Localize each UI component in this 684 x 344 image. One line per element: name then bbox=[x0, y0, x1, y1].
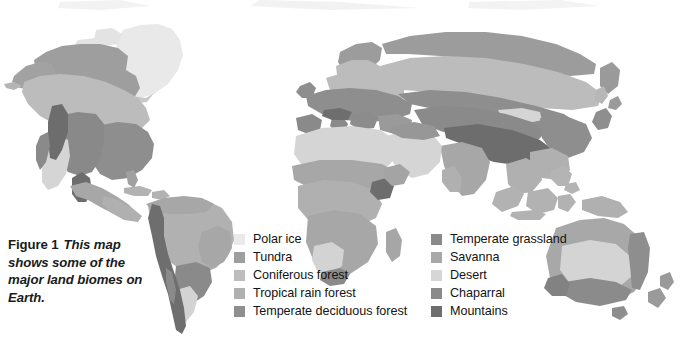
central-america-rain-forest bbox=[102, 196, 142, 222]
figure-label: Figure 1 bbox=[8, 237, 59, 252]
legend-label-tropical-rain-forest: Tropical rain forest bbox=[253, 287, 356, 300]
legend-item: Coniferous forest bbox=[234, 267, 407, 284]
new-guinea-rain-forest bbox=[582, 196, 628, 218]
legend-item: Tundra bbox=[234, 249, 407, 266]
japan-deciduous-forest-2 bbox=[608, 96, 622, 110]
south-america-savanna-east bbox=[198, 226, 232, 268]
japan-deciduous-forest bbox=[592, 108, 612, 130]
legend-item: Savanna bbox=[431, 249, 567, 266]
legend-item: Polar ice bbox=[234, 231, 407, 248]
legend-item: Temperate grassland bbox=[431, 231, 567, 248]
legend-item: Temperate deciduous forest bbox=[234, 303, 407, 320]
tasmania-forest bbox=[612, 306, 628, 320]
figure-caption: Figure 1This map shows some of the major… bbox=[8, 236, 150, 306]
page-print-artifacts bbox=[58, 0, 600, 10]
legend-swatch-desert bbox=[431, 270, 442, 281]
legend-swatch-chaparral bbox=[431, 288, 442, 299]
new-zealand-south-forest bbox=[648, 288, 666, 308]
biome-map-figure: This map shows some of the major land bi… bbox=[0, 0, 684, 344]
legend-label-temperate-grassland: Temperate grassland bbox=[450, 233, 567, 246]
legend-label-mountains: Mountains bbox=[450, 305, 508, 318]
legend-swatch-mountains bbox=[431, 306, 442, 317]
sulawesi-rain-forest bbox=[558, 194, 576, 212]
legend-swatch-temperate-grassland bbox=[431, 234, 442, 245]
legend-item: Tropical rain forest bbox=[234, 285, 407, 302]
legend-column-left: Polar ice Tundra Coniferous forest Tropi… bbox=[234, 231, 407, 321]
legend-swatch-temperate-deciduous-forest bbox=[234, 306, 245, 317]
legend-column-right: Temperate grassland Savanna Desert Chapa… bbox=[431, 231, 567, 321]
legend-swatch-tropical-rain-forest bbox=[234, 288, 245, 299]
legend-item: Mountains bbox=[431, 303, 567, 320]
region-south-america bbox=[146, 196, 234, 334]
legend-label-coniferous-forest: Coniferous forest bbox=[253, 269, 348, 282]
legend-label-tundra: Tundra bbox=[253, 251, 292, 264]
legend-item: Desert bbox=[431, 267, 567, 284]
new-zealand-north-forest bbox=[660, 272, 674, 290]
legend-label-desert: Desert bbox=[450, 269, 487, 282]
region-europe bbox=[296, 42, 412, 134]
legend-swatch-savanna bbox=[431, 252, 442, 263]
legend-label-savanna: Savanna bbox=[450, 251, 499, 264]
legend-swatch-coniferous-forest bbox=[234, 270, 245, 281]
borneo-rain-forest bbox=[526, 188, 558, 214]
legend-swatch-tundra bbox=[234, 252, 245, 263]
region-asia bbox=[380, 32, 622, 196]
legend-item: Chaparral bbox=[431, 285, 567, 302]
legend-swatch-polar-ice bbox=[234, 234, 245, 245]
legend-label-temperate-deciduous-forest: Temperate deciduous forest bbox=[253, 305, 407, 318]
legend-label-chaparral: Chaparral bbox=[450, 287, 505, 300]
caribbean-islands-rain-forest bbox=[124, 186, 152, 196]
legend-label-polar-ice: Polar ice bbox=[253, 233, 302, 246]
south-america-chaparral bbox=[166, 268, 176, 304]
